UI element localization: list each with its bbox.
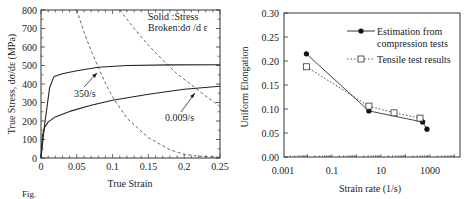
y-tick-label: 500 <box>22 60 37 71</box>
data-point <box>417 115 423 121</box>
y-tick-label: 100 <box>22 134 37 145</box>
y-tick-label: 200 <box>22 116 37 127</box>
right-legend: Estimation from compression tests Tensil… <box>347 26 451 65</box>
x-tick-label: 0.25 <box>211 161 229 172</box>
y-tick-label: 0.10 <box>262 104 280 115</box>
series-line <box>306 67 420 118</box>
y-tick-label: 700 <box>22 23 37 34</box>
left-y-label: True Stress, dσ/dε (MPa) <box>6 34 18 134</box>
y-tick-label: 800 <box>22 5 37 16</box>
x-tick-label: 0.1 <box>326 165 339 176</box>
data-point <box>304 51 309 56</box>
data-point <box>424 127 429 132</box>
y-tick-label: 600 <box>22 42 37 53</box>
x-tick-label: 0.15 <box>140 161 158 172</box>
figure: 0100200300400500600700800 00.050.10.150.… <box>0 0 468 199</box>
y-tick-label: 0.30 <box>262 8 280 19</box>
caption-fragment: Fig. <box>22 189 36 199</box>
data-point <box>391 110 397 116</box>
right-x-label: Strain rate (1/s) <box>339 183 401 195</box>
x-tick-label: 0.2 <box>178 161 191 172</box>
right-y-label: Uniform Elongation <box>239 47 250 128</box>
legend-broken: Broken:dσ /d ε <box>148 22 208 33</box>
left-x-ticks: 00.050.10.150.20.25 <box>39 10 229 172</box>
legend-solid: Solid :Stress <box>148 11 198 22</box>
stress-strain-chart: 0100200300400500600700800 00.050.10.150.… <box>6 5 229 190</box>
elongation-chart: 0.000.050.100.150.200.250.30 0.0010.1101… <box>239 8 460 196</box>
y-tick-label: 0.25 <box>262 32 280 43</box>
x-tick-label: 0 <box>39 161 44 172</box>
y-tick-label: 0.05 <box>262 128 280 139</box>
x-tick-label: 10 <box>376 165 386 176</box>
y-tick-label: 0.20 <box>262 56 280 67</box>
annotation-350: 350/s <box>74 88 96 99</box>
x-tick-label: 1000 <box>420 165 440 176</box>
y-tick-label: 0.15 <box>262 80 280 91</box>
legend-label-tensile: Tensile test results <box>377 54 451 65</box>
open-square-icon <box>358 56 364 62</box>
y-tick-label: 0 <box>32 153 37 164</box>
legend-label-estimation-1: Estimation from <box>377 26 442 37</box>
y-tick-label: 0.00 <box>262 152 280 163</box>
legend-label-estimation-2: compression tests <box>377 38 448 49</box>
data-point <box>303 64 309 70</box>
arrow-0009-head <box>190 93 195 98</box>
y-tick-label: 300 <box>22 97 37 108</box>
x-tick-label: 0.1 <box>106 161 119 172</box>
x-tick-label: 0.001 <box>272 165 295 176</box>
filled-circle-icon <box>358 28 363 33</box>
x-tick-label: 0.05 <box>68 161 86 172</box>
annotation-0009: 0.009/s <box>165 112 194 123</box>
y-tick-label: 400 <box>22 79 37 90</box>
series-line <box>306 54 427 129</box>
left-x-label: True Strain <box>108 178 153 189</box>
data-point <box>366 103 372 109</box>
